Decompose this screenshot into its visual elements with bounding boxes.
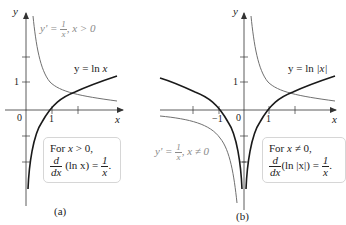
figure-b-ln-label: y = ln |x| bbox=[288, 62, 327, 74]
figure-b-origin-label: 0 bbox=[236, 112, 241, 123]
figure-b-derivative-box: For x ≠ 0, ddx(ln |x|) = 1x. bbox=[262, 137, 346, 183]
figure-b-y1-label: 1 bbox=[233, 76, 238, 87]
figure-a-ln-label: y = ln x bbox=[74, 62, 107, 74]
figure-a-caption: (a) bbox=[54, 205, 66, 217]
figure-a-box-condition: For x > 0, bbox=[50, 142, 114, 154]
figure-b-x1-label: 1 bbox=[266, 113, 271, 124]
figure-a-derivative-box: For x > 0, ddx (ln x) = 1x. bbox=[43, 137, 121, 183]
figure-b-x-axis-label: x bbox=[332, 113, 337, 125]
figure-b-box-formula: ddx(ln |x|) = 1x. bbox=[269, 155, 339, 178]
figure-b-box-condition: For x ≠ 0, bbox=[269, 142, 339, 154]
figure-b-y-axis-label: y bbox=[233, 5, 238, 17]
figure-a-reciprocal-label: y' = 1x, x > 0 bbox=[40, 20, 95, 39]
figure-a-x1-label: 1 bbox=[49, 113, 54, 124]
figure-b-caption: (b) bbox=[236, 210, 249, 222]
figure-b-ln-curve-left bbox=[160, 78, 242, 189]
figure-b-xm1-label: −1 bbox=[212, 113, 223, 124]
figure-b-reciprocal-label: y' = 1x, x ≠ 0 bbox=[155, 143, 209, 162]
figure-b-reciprocal-curve-right bbox=[251, 16, 335, 101]
figure-a-box-formula: ddx (ln x) = 1x. bbox=[50, 155, 114, 178]
figure-a-origin-label: 0 bbox=[17, 112, 22, 123]
figure-a-y-axis-label: y bbox=[13, 5, 18, 17]
figure-a-y1-label: 1 bbox=[14, 76, 19, 87]
figure-a-x-axis-label: x bbox=[115, 113, 120, 125]
